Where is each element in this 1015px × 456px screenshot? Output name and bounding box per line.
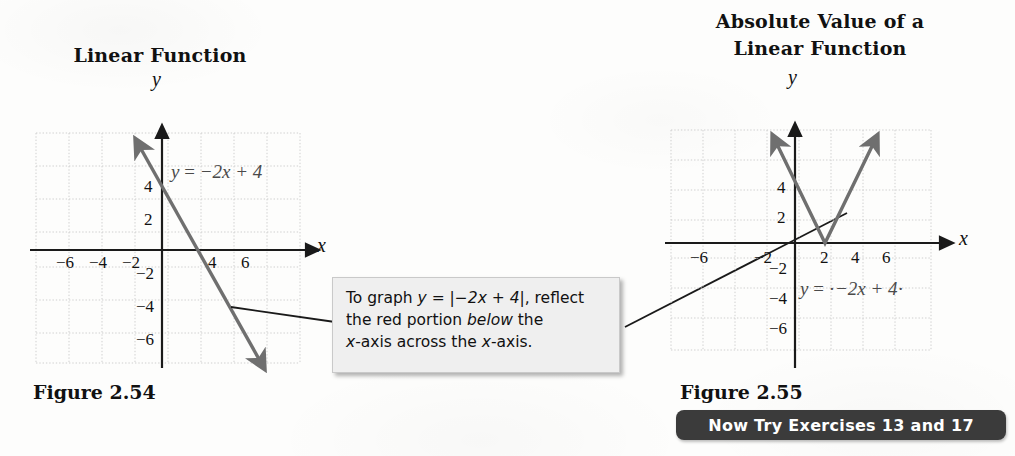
right-xtick-2: 2 — [820, 248, 829, 268]
left-xtick-6: 6 — [241, 253, 250, 273]
left-xtick-4: 4 — [208, 253, 217, 273]
callout-line3-x2: x — [482, 333, 491, 351]
right-ytick-4: 4 — [777, 178, 786, 198]
right-figure-title-line1: Absolute Value of a — [676, 10, 964, 32]
right-ytick--6: −6 — [769, 319, 787, 339]
left-ytick--6: −6 — [136, 330, 154, 350]
callout-box: To graph y = |−2x + 4|, reflect the red … — [332, 277, 620, 373]
callout-line1-prefix: To graph — [346, 289, 418, 307]
callout-line-3: x-axis across the x-axis. — [346, 331, 607, 353]
now-try-exercises-banner[interactable]: Now Try Exercises 13 and 17 — [676, 410, 1006, 440]
callout-line-1: To graph y = |−2x + 4|, reflect — [346, 287, 607, 309]
right-figure-title-line2: Linear Function — [676, 37, 964, 59]
right-equation-lhs: y — [800, 278, 808, 299]
right-ytick--2: −2 — [769, 259, 787, 279]
right-absolute-value-v-graph — [773, 136, 877, 243]
callout-line3-mid: -axis across the — [355, 333, 482, 351]
left-ytick--2: −2 — [136, 264, 154, 284]
left-equation-equals: = — [184, 161, 195, 182]
callout-line2-suffix: the — [513, 311, 543, 329]
left-y-axis — [156, 125, 168, 368]
right-equation-label: y = ·−2x + 4· — [800, 278, 904, 300]
left-equation-rhs: −2x + 4 — [200, 161, 263, 182]
right-ytick-2: 2 — [777, 208, 786, 228]
right-xtick-6: 6 — [882, 248, 891, 268]
right-ytick--4: −4 — [769, 289, 787, 309]
left-xtick--6: −6 — [56, 253, 74, 273]
textbook-figure-page: Linear Function y x — [0, 0, 1015, 456]
left-equation-lhs: y — [171, 161, 179, 182]
right-y-axis-letter: y — [788, 66, 797, 89]
left-figure-caption: Figure 2.54 — [33, 381, 156, 403]
left-ytick-4: 4 — [144, 177, 153, 197]
callout-line1-suffix: , reflect — [525, 289, 584, 307]
right-equation-rhs: −2x + 4 — [835, 278, 898, 299]
right-xtick-4: 4 — [851, 248, 860, 268]
right-figure-caption: Figure 2.55 — [680, 381, 803, 403]
leader-line-left — [231, 307, 335, 322]
callout-line-2: the red portion below the — [346, 309, 607, 331]
left-ytick-2: 2 — [144, 210, 153, 230]
left-y-axis-letter: y — [152, 68, 161, 91]
left-ytick--4: −4 — [136, 297, 154, 317]
now-try-exercises-label: Now Try Exercises 13 and 17 — [708, 416, 974, 435]
right-equation-bar-right: · — [898, 278, 904, 299]
left-xtick--4: −4 — [89, 253, 107, 273]
callout-line2-emphasis: below — [467, 311, 513, 329]
left-figure-title: Linear Function — [36, 44, 284, 66]
right-x-axis — [665, 237, 953, 249]
callout-line3-x1: x — [346, 333, 355, 351]
callout-line2-prefix: the red portion — [346, 311, 467, 329]
right-grid — [671, 130, 931, 350]
left-equation-label: y = −2x + 4 — [171, 161, 262, 183]
callout-line1-equation: y = |−2x + 4| — [418, 289, 525, 307]
right-x-axis-letter: x — [959, 227, 968, 250]
callout-line3-end: -axis. — [491, 333, 533, 351]
right-xtick--6: −6 — [690, 248, 708, 268]
right-equation-equals: = — [813, 278, 824, 299]
